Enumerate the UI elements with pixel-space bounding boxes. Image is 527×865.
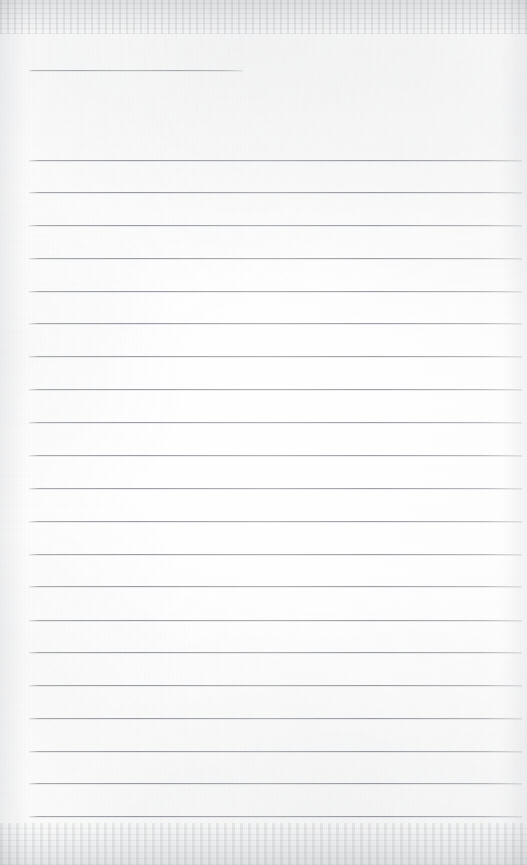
- rule-line-7: [29, 356, 522, 357]
- rule-line-1: [29, 160, 522, 161]
- rule-line-10: [29, 455, 522, 456]
- rule-line-4: [29, 258, 522, 259]
- rule-line-20: [29, 783, 522, 784]
- rule-line-19: [29, 751, 522, 752]
- rule-line-11: [29, 488, 522, 489]
- rule-line-8: [29, 389, 522, 390]
- rule-lines-layer: [0, 0, 527, 865]
- rule-line-6: [29, 323, 522, 324]
- rule-line-3: [29, 225, 522, 226]
- rule-line-9: [29, 422, 522, 423]
- rule-line-2: [29, 192, 522, 193]
- rule-line-12: [29, 521, 522, 522]
- rule-line-14: [29, 586, 522, 587]
- rule-line-17: [29, 685, 522, 686]
- rule-line-13: [29, 554, 522, 555]
- header-rule-line: [29, 70, 243, 71]
- scanned-page: [0, 0, 527, 865]
- rule-line-21: [29, 816, 522, 817]
- rule-line-18: [29, 718, 522, 719]
- rule-line-15: [29, 620, 522, 621]
- rule-line-5: [29, 291, 522, 292]
- rule-line-16: [29, 652, 522, 653]
